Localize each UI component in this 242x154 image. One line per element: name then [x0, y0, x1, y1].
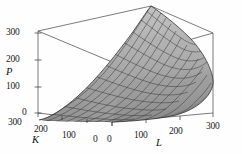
tick-label-p-0: 0 [22, 107, 27, 117]
axis-title-k: K [32, 134, 39, 145]
surface-mesh [39, 6, 213, 122]
tick-label-l-200: 200 [169, 126, 183, 136]
tick-label-l-300: 300 [206, 121, 220, 131]
tick-label-p-100: 100 [6, 81, 20, 91]
axis-title-l: L [156, 137, 162, 148]
tick-label-k-300: 300 [8, 117, 22, 127]
tick-label-p-200: 200 [6, 54, 20, 64]
tick-label-k-100: 100 [62, 130, 76, 140]
tick-label-p-300: 300 [6, 27, 20, 37]
tick-label-k-200: 200 [34, 124, 48, 134]
surface-plot-figure: 300 200 100 0 P 300 200 100 0 K 0 100 20… [0, 0, 242, 154]
axis-title-p: P [6, 66, 12, 77]
tick-label-l-0: 0 [107, 134, 112, 144]
tick-label-k-0: 0 [93, 134, 98, 144]
tick-label-l-100: 100 [134, 130, 148, 140]
